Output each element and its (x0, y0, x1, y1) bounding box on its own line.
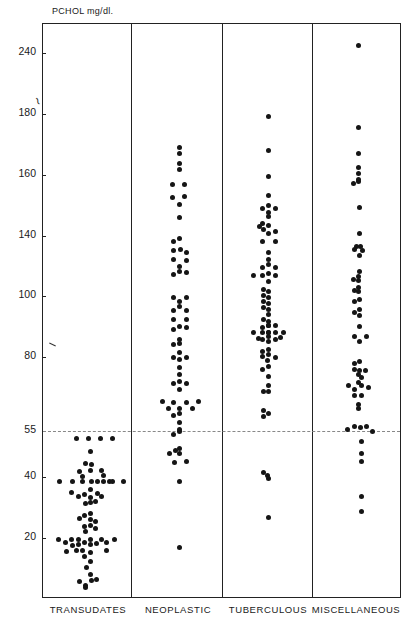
category-label-miscellaneous: MISCELLANEOUS (310, 604, 402, 615)
data-point (260, 367, 265, 372)
data-point (273, 330, 278, 335)
category-label-tuberculous: TUBERCULOUS (222, 604, 314, 615)
data-point (184, 400, 189, 405)
data-point (88, 542, 93, 547)
data-point (95, 479, 100, 484)
data-point (99, 468, 104, 473)
data-point (273, 273, 278, 278)
data-point (261, 414, 266, 419)
data-point (177, 264, 182, 269)
data-point (184, 355, 189, 360)
data-point (94, 577, 99, 582)
data-point (88, 523, 93, 528)
data-point (265, 358, 270, 363)
data-point (190, 406, 195, 411)
data-point (177, 350, 182, 355)
data-point (170, 182, 175, 187)
data-point (260, 330, 265, 335)
data-point (260, 239, 265, 244)
data-point (88, 572, 93, 577)
data-point (196, 399, 201, 404)
column-divider (312, 24, 313, 597)
data-point (261, 408, 266, 413)
data-point (346, 383, 351, 388)
data-point (184, 381, 189, 386)
data-point (359, 509, 364, 514)
data-point (177, 161, 182, 166)
data-point (171, 248, 176, 253)
data-point (359, 439, 364, 444)
data-point (273, 337, 278, 342)
data-point (83, 529, 88, 534)
data-point (266, 193, 271, 198)
data-point (364, 424, 369, 429)
data-point (82, 524, 87, 529)
data-point (177, 446, 182, 451)
data-point (261, 227, 266, 232)
data-point (184, 295, 189, 300)
data-point (266, 214, 271, 219)
data-point (356, 171, 361, 176)
data-point (171, 400, 176, 405)
data-point (171, 317, 176, 322)
data-point (177, 324, 182, 329)
data-point (99, 494, 104, 499)
data-point (357, 307, 362, 312)
data-point (89, 578, 94, 583)
data-point (352, 361, 357, 366)
column-divider (131, 24, 132, 597)
data-point (63, 540, 68, 545)
data-point (273, 239, 278, 244)
data-point (177, 411, 182, 416)
data-point (184, 308, 189, 313)
data-point (261, 299, 266, 304)
y-tick-label: 160 (2, 167, 36, 179)
data-point (82, 554, 87, 559)
data-point (184, 258, 189, 263)
data-point (266, 262, 271, 267)
y-tick-label: 140 (2, 228, 36, 240)
data-point (251, 273, 256, 278)
data-point (266, 339, 271, 344)
data-point (370, 429, 375, 434)
data-point (167, 451, 172, 456)
data-point (177, 341, 182, 346)
y-tick-label: 100 (2, 288, 36, 300)
data-point (352, 367, 357, 372)
data-point (57, 479, 62, 484)
data-point (177, 379, 182, 384)
y-tick-label: 40 (2, 469, 36, 481)
data-point (184, 459, 189, 464)
data-point (76, 542, 81, 547)
data-point (352, 299, 357, 304)
data-point (266, 389, 271, 394)
data-point (172, 460, 177, 465)
data-point (166, 406, 171, 411)
data-point (352, 334, 357, 339)
data-point (356, 43, 361, 48)
data-point (171, 239, 176, 244)
data-point (356, 406, 361, 411)
data-point (357, 205, 362, 210)
data-point (70, 543, 75, 548)
data-point (273, 229, 278, 234)
data-point (110, 479, 115, 484)
data-point (86, 436, 91, 441)
data-point (177, 299, 182, 304)
data-point (357, 297, 362, 302)
data-point (88, 449, 93, 454)
data-point (177, 236, 182, 241)
data-point (363, 368, 368, 373)
data-point (184, 270, 189, 275)
data-point (171, 308, 176, 313)
data-point (356, 289, 361, 294)
data-point (352, 247, 357, 252)
data-point (359, 451, 364, 456)
data-point (352, 387, 357, 392)
data-point (366, 385, 371, 390)
data-point (77, 469, 82, 474)
data-point (266, 352, 271, 357)
data-point (352, 393, 357, 398)
data-point (266, 307, 271, 312)
data-point (359, 494, 364, 499)
